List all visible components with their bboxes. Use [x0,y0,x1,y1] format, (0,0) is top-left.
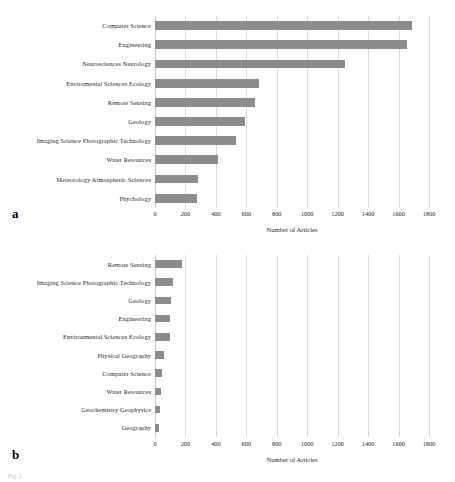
category-label: Imaging Science Photographic Technology [37,279,151,286]
bar-row [155,364,429,382]
x-tick-label: 1600 [392,440,405,448]
x-tick-label: 0 [153,210,156,218]
category-label-row: Engineering [0,35,151,54]
bar [155,278,173,286]
x-tick-label: 400 [211,440,220,448]
x-tick-label: 1400 [362,440,375,448]
x-tick-label: 800 [272,210,281,218]
bar [155,315,170,323]
bar-row [155,93,429,112]
x-tick-label: 1800 [423,440,436,448]
x-tick-label: 600 [242,210,251,218]
x-axis-label-a: Number of Articles [155,225,429,234]
x-tick-label: 800 [272,440,281,448]
bar [155,60,345,69]
x-tick-label: 200 [181,440,190,448]
bar-row [155,189,429,208]
category-label: Computer Science [102,22,151,29]
category-label-row: Remote Sensing [0,93,151,112]
category-label: Environmental Sciences Ecology [63,333,151,340]
bar [155,194,197,203]
panel-letter-b: b [12,448,19,461]
x-tick-label: 1400 [362,210,375,218]
bar [155,79,259,88]
bar-row [155,255,429,273]
category-label-row: Remote Sensing [0,255,151,273]
bar-row [155,74,429,93]
x-axis-label-b: Number of Articles [155,455,429,464]
x-tick-label: 1600 [392,210,405,218]
bar-row [155,112,429,131]
category-label: Remote Sensing [108,261,151,268]
category-label: Water Resources [106,388,151,395]
category-label-row: Geography [0,419,151,437]
category-label: Meteorology Atmospheric Sciences [56,176,151,183]
category-label-row: Enviromental Sciences Ecology [0,74,151,93]
x-tick-label: 1000 [301,210,314,218]
bar [155,155,218,164]
category-label: Geochemistry Geophysics [81,406,151,413]
category-label: Engineering [119,41,151,48]
category-label: Engineering [119,315,151,322]
category-label: Imaging Science Photographic Technology [37,137,151,144]
category-label-row: Water Resources [0,150,151,169]
panel-letter-a: a [12,207,19,220]
category-label: Geology [128,297,151,304]
x-tick-label: 0 [153,440,156,448]
category-label-row: Imaging Science Photographic Technology [0,131,151,150]
category-label: Enviromental Sciences Ecology [66,80,151,87]
figure-caption: Fig. 1 [8,472,22,480]
bar-row [155,35,429,54]
bar [155,369,162,377]
plot-area-a [155,16,429,208]
bar [155,136,236,145]
x-tick-label: 1800 [423,210,436,218]
category-label-row: Computer Science [0,364,151,382]
x-tick-label: 400 [211,210,220,218]
category-label-row: Geology [0,112,151,131]
bar-row [155,382,429,400]
bar-row [155,170,429,189]
bar [155,117,245,126]
bar-row [155,131,429,150]
bar-rows-b [155,255,429,437]
bar [155,406,160,414]
bar-row [155,310,429,328]
category-label-row: Neurosciences Neurology [0,54,151,73]
bar [155,351,164,359]
x-tick-label: 1200 [331,210,344,218]
x-axis-ticks-a: 020040060080010001200140016001800 [155,210,429,222]
bar-row [155,328,429,346]
category-label: Geology [128,118,151,125]
category-label-row: Computer Science [0,16,151,35]
bar-row [155,273,429,291]
category-label: Physical Geography [97,352,151,359]
category-label-row: Physical Geography [0,346,151,364]
category-label-row: Environmental Sciences Ecology [0,328,151,346]
bar [155,98,255,107]
bar [155,21,412,30]
category-labels-b: Remote SensingImaging Science Photograph… [0,255,151,437]
chart-panel-a: a Computer ScienceEngineeringNeuroscienc… [0,0,455,240]
bar-rows-a [155,16,429,208]
category-label: Computer Science [102,370,151,377]
category-label-row: Meteorology Atmospheric Sciences [0,170,151,189]
category-label: Water Resources [106,156,151,163]
plot-area-b [155,255,429,437]
bar-row [155,150,429,169]
bar-row [155,291,429,309]
bar-row [155,16,429,35]
x-axis-ticks-b: 020040060080010001200140016001800 [155,440,429,452]
category-label-row: Water Resources [0,382,151,400]
gridline-1800 [429,16,430,208]
x-tick-label: 200 [181,210,190,218]
bar-row [155,419,429,437]
bar [155,40,407,49]
category-label-row: Geochemistry Geophysics [0,401,151,419]
category-label-row: Phychology [0,189,151,208]
bar [155,333,170,341]
bar [155,175,198,184]
category-label-row: Geology [0,291,151,309]
x-tick-label: 1200 [331,440,344,448]
bar [155,388,161,396]
